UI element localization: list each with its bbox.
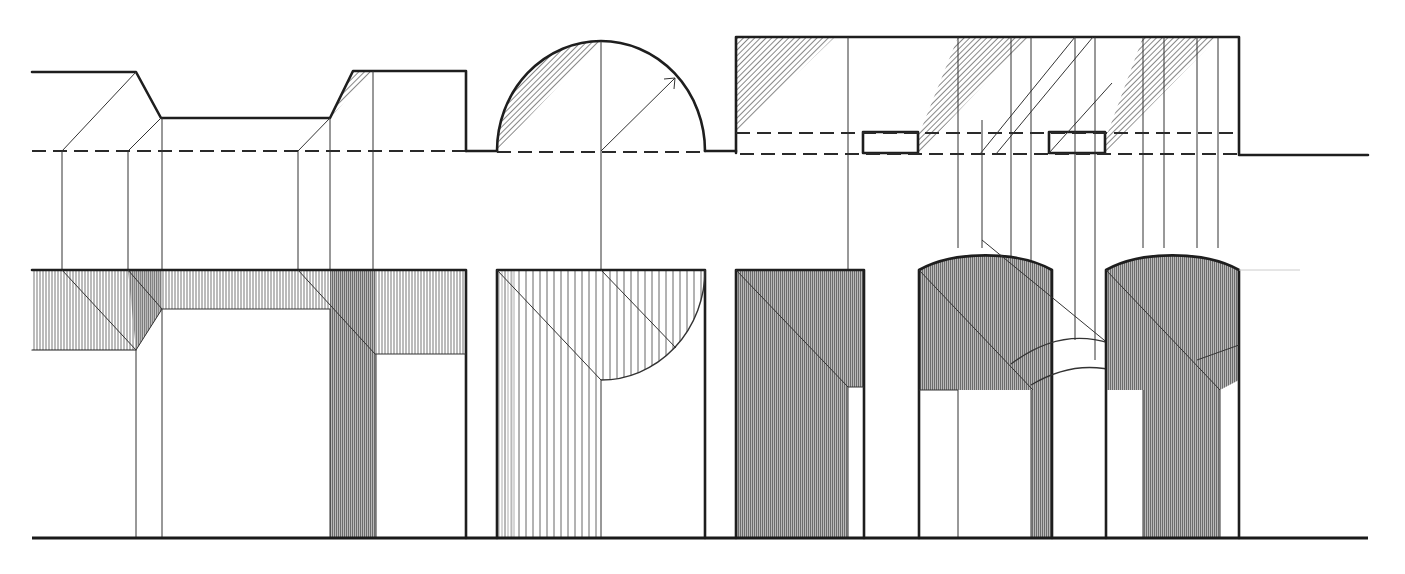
plan-stepped-wall [32,71,470,270]
elevation-stepped-wall [32,270,466,538]
plan-semicircular-niche [466,41,736,270]
section-arcade [736,37,1368,538]
section-semicircular-niche [466,41,736,538]
elevation-arcade [736,240,1239,538]
section-stepped-wall [32,71,470,538]
elevation-semicircular-niche [497,270,705,538]
shadow-projection-drawing [0,0,1405,574]
